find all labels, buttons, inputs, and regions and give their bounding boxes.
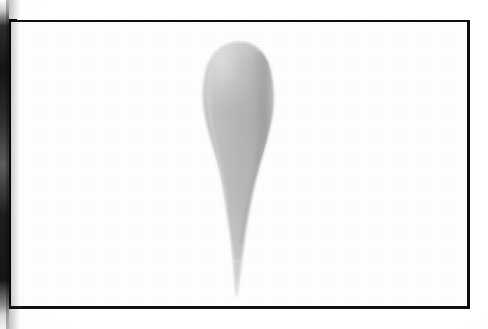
binding-gutter-falloff <box>6 0 20 329</box>
plate-inner-field <box>11 22 467 306</box>
scanned-plate-page <box>0 0 488 329</box>
teardrop-specimen-icon <box>11 22 467 306</box>
specimen-body <box>191 38 291 306</box>
specimen-illustration <box>11 22 467 306</box>
